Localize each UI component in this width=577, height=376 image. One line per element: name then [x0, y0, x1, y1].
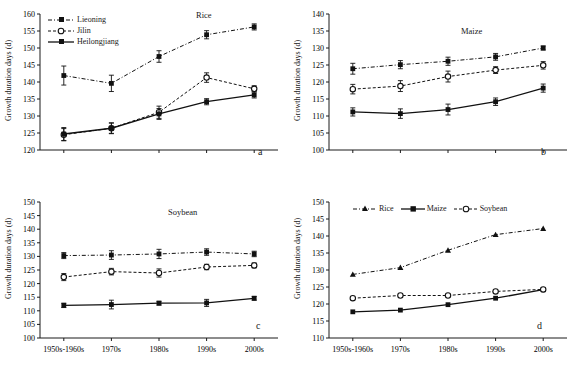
data-point-heilongjiang: [157, 301, 162, 306]
x-tick-label: 1980s: [438, 345, 457, 354]
data-point-jilin: [252, 263, 257, 268]
y-tick-label: 120: [312, 78, 324, 87]
series-heilongjiang: [61, 92, 256, 141]
series-jilin: [350, 62, 546, 94]
y-tick-label: 110: [312, 334, 324, 343]
legend-swatch-maize-solid-square: [401, 204, 425, 214]
y-tick-label: 150: [23, 198, 35, 207]
x-tick-label: 1970s: [391, 345, 410, 354]
data-point-maize: [398, 308, 403, 313]
panel-a-title: Rice: [196, 10, 212, 20]
data-point-rice: [540, 226, 546, 231]
data-point-liaoning: [398, 62, 403, 67]
x-tick-label: 1950s-1960s: [332, 345, 373, 354]
legend-item-jilin: Jilin: [48, 25, 119, 36]
data-point-soybean: [398, 293, 403, 298]
legend-label-jilin: Jilin: [77, 25, 91, 36]
y-tick-label: 120: [312, 300, 324, 309]
data-point-jilin: [350, 86, 355, 91]
data-point-soybean: [350, 296, 355, 301]
legend-item-rice: Rice: [353, 203, 394, 214]
panel-c-plot: 1001051101151201251301351401451501950s-1…: [0, 188, 288, 376]
panel-d-provincial-average: Growth duration days (d) d Rice Maize: [289, 188, 577, 376]
data-point-jilin: [445, 74, 450, 79]
data-point-liaoning: [157, 252, 162, 257]
legend-label-soybean: Soybean: [480, 203, 508, 214]
data-point-maize: [493, 296, 498, 301]
data-point-jilin: [109, 269, 114, 274]
legend-item-soybean: Soybean: [454, 203, 508, 214]
y-tick-label: 145: [23, 61, 35, 70]
data-point-rice: [397, 265, 403, 270]
y-tick-label: 130: [312, 44, 324, 53]
data-point-jilin: [204, 75, 209, 80]
data-point-heilongjiang: [157, 112, 162, 117]
y-tick-label: 100: [23, 334, 35, 343]
data-point-liaoning: [61, 73, 66, 78]
y-tick-label: 115: [312, 95, 324, 104]
y-tick-label: 130: [23, 112, 35, 121]
series-jilin: [61, 263, 257, 281]
y-tick-label: 100: [312, 146, 324, 155]
y-tick-label: 125: [312, 283, 324, 292]
legend-label-rice: Rice: [379, 203, 394, 214]
data-point-jilin: [252, 86, 257, 91]
panel-a-plot: 120125130135140145150155160: [0, 0, 288, 188]
data-point-liaoning: [446, 59, 451, 64]
data-point-heilongjiang: [109, 302, 114, 307]
data-point-jilin: [541, 63, 546, 68]
data-point-heilongjiang: [446, 107, 451, 112]
x-tick-label: 1990s: [197, 345, 216, 354]
y-tick-label: 125: [23, 129, 35, 138]
data-point-liaoning: [109, 81, 114, 86]
legend-label-maize: Maize: [427, 203, 447, 214]
y-tick-label: 145: [23, 212, 35, 221]
series-liaoning: [61, 249, 256, 260]
panel-d-plot: 1101151201251301351401451501950s-1960s19…: [289, 188, 577, 376]
y-tick-label: 135: [23, 239, 35, 248]
data-point-heilongjiang: [398, 111, 403, 116]
legend-swatch-lieoning-dashdot-square: [48, 15, 74, 25]
series-liaoning: [350, 46, 545, 75]
y-tick-label: 150: [23, 44, 35, 53]
x-tick-label: 1950s-1960s: [43, 345, 84, 354]
y-tick-label: 160: [23, 10, 35, 19]
data-point-jilin: [204, 264, 209, 269]
y-tick-label: 125: [312, 61, 324, 70]
panel-b-maize: Growth duration days (d) Maize b 1001051…: [289, 0, 577, 188]
data-point-maize: [350, 309, 355, 314]
data-point-jilin: [61, 274, 66, 279]
data-point-heilongjiang: [252, 296, 257, 301]
y-tick-label: 120: [23, 146, 35, 155]
panel-c-y-axis-label: Growth duration days (d): [2, 178, 16, 338]
y-tick-label: 125: [23, 266, 35, 275]
figure-multi-panel-growth-duration: Growth duration days (d) Rice a Lieoning…: [0, 0, 577, 376]
panel-d-letter: d: [537, 320, 542, 331]
panel-c-soybean: Growth duration days (d) Soybean c 10010…: [0, 188, 288, 376]
data-point-heilongjiang: [204, 301, 209, 306]
data-point-liaoning: [252, 25, 257, 30]
y-tick-label: 135: [312, 27, 324, 36]
panel-c-letter: c: [256, 320, 260, 331]
data-point-soybean: [541, 287, 546, 292]
series-heilongjiang: [61, 296, 256, 309]
y-tick-label: 145: [312, 215, 324, 224]
legend-item-heilongjiang: Heilongjiang: [48, 36, 119, 47]
data-point-soybean: [493, 289, 498, 294]
data-point-liaoning: [252, 252, 257, 257]
panel-d-legend: Rice Maize Soybean: [353, 203, 514, 214]
data-point-heilongjiang: [493, 99, 498, 104]
panel-b-plot: 100105110115120125130135140: [289, 0, 577, 188]
data-point-heilongjiang: [350, 110, 355, 115]
x-tick-label: 2000s: [534, 345, 553, 354]
y-tick-label: 120: [23, 280, 35, 289]
series-rice: [350, 226, 546, 277]
data-point-jilin: [156, 270, 161, 275]
panel-d-y-axis-label: Growth duration days (d): [291, 178, 305, 338]
data-point-heilongjiang: [61, 132, 66, 137]
legend-swatch-rice-dashdot-triangle: [353, 204, 377, 214]
legend-item-maize: Maize: [401, 203, 447, 214]
series-soybean: [350, 287, 546, 301]
x-tick-label: 1990s: [486, 345, 505, 354]
panel-a-y-axis-label: Growth duration days (d): [2, 0, 16, 160]
